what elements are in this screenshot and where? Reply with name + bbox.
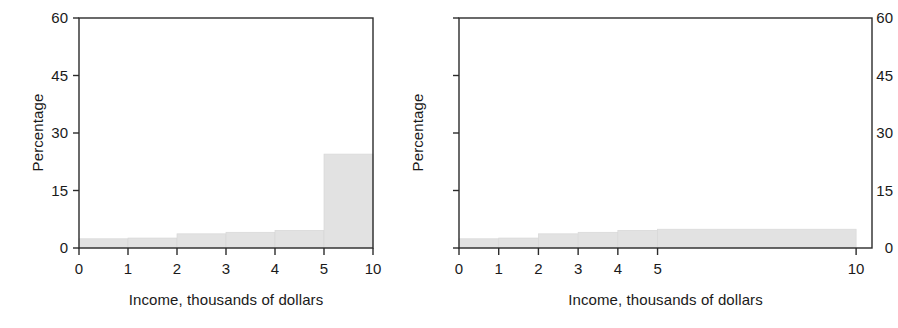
- histogram-bar-2-3: [177, 234, 226, 248]
- x-tick-label-right-5: 5: [633, 261, 683, 276]
- histogram-bar-2-3: [538, 234, 578, 248]
- x-tick-label-left-4: 4: [250, 261, 300, 276]
- histogram-bar-4-5: [275, 230, 324, 248]
- x-axis-title-left: Income, thousands of dollars: [49, 291, 403, 308]
- histogram-panel-left: Percentage 0 15 30 45 60 0 1 2 3 4 5 10 …: [0, 0, 445, 328]
- x-tick-label-right-10: 10: [831, 261, 881, 276]
- histogram-bar-3-4: [578, 232, 618, 248]
- plot-area-left: [0, 0, 445, 328]
- plot-frame: [459, 18, 872, 248]
- histogram-bar-1-2: [499, 238, 539, 248]
- histogram-bar-0-1: [459, 239, 499, 248]
- plot-area-right: [445, 0, 890, 328]
- histogram-bar-4-5: [618, 230, 658, 248]
- histogram-bar-1-2: [128, 238, 177, 248]
- x-tick-label-left-2: 2: [152, 261, 202, 276]
- x-tick-label-left-5: 5: [299, 261, 349, 276]
- histogram-bar-3-4: [226, 232, 275, 248]
- x-tick-label-left-0: 0: [54, 261, 104, 276]
- histogram-bar-5-10: [658, 229, 857, 248]
- x-axis-title-right: Income, thousands of dollars: [429, 291, 898, 308]
- histogram-panel-right: Percentage 0 15 30 45 60 0 1 2 3 4 5 10 …: [445, 0, 890, 328]
- histogram-bar-0-1: [79, 239, 128, 248]
- y-axis-title-right: Percentage: [409, 33, 426, 233]
- histogram-bar-5-10: [324, 154, 373, 248]
- x-tick-label-left-1: 1: [103, 261, 153, 276]
- x-tick-label-left-3: 3: [201, 261, 251, 276]
- x-tick-label-left-10: 10: [348, 261, 398, 276]
